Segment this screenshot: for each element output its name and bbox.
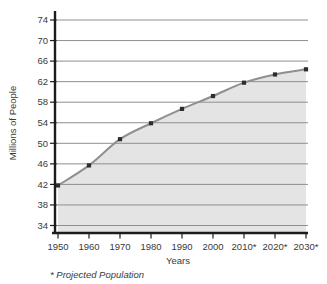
data-point-1960 [87,163,91,167]
x-tick-label-1990: 1990 [171,241,192,252]
y-tick-label-66: 66 [37,55,48,66]
data-point-2030* [304,67,308,71]
x-tick-label-1980: 1980 [140,241,161,252]
x-tick-label-2000: 2000 [202,241,223,252]
y-tick-label-62: 62 [37,76,48,87]
x-axis-title: Years [166,255,190,266]
y-tick-label-58: 58 [37,96,48,107]
population-area-fill [58,69,306,233]
data-point-1980 [149,121,153,125]
data-point-1990 [180,107,184,111]
y-tick-label-70: 70 [37,35,48,46]
x-tick-label-1960: 1960 [78,241,99,252]
y-tick-label-54: 54 [37,117,48,128]
data-point-1950 [56,183,60,187]
population-area-chart: 3438424650545862667074195019601970198019… [0,0,327,284]
x-tick-label-1950: 1950 [47,241,68,252]
y-tick-label-46: 46 [37,158,48,169]
y-axis-title: Millions of People [7,86,18,160]
data-point-2020* [273,72,277,76]
y-tick-label-50: 50 [37,138,48,149]
figure: 3438424650545862667074195019601970198019… [0,0,327,284]
area-fill-layer [58,69,306,233]
x-tick-label-2010*: 2010* [232,241,257,252]
data-point-2010* [242,81,246,85]
x-tick-label-2020*: 2020* [263,241,288,252]
y-tick-label-38: 38 [37,199,48,210]
data-point-2000 [211,94,215,98]
projected-population-footnote: * Projected Population [50,269,144,280]
y-tick-label-34: 34 [37,220,48,231]
data-point-1970 [118,137,122,141]
y-tick-label-42: 42 [37,179,48,190]
x-tick-label-2030*: 2030* [294,241,319,252]
x-tick-label-1970: 1970 [109,241,130,252]
y-tick-label-74: 74 [37,14,48,25]
